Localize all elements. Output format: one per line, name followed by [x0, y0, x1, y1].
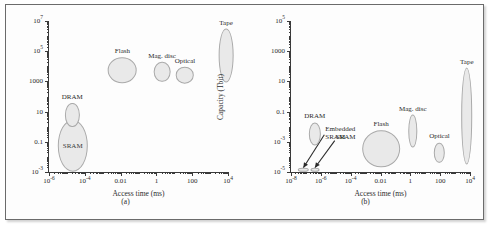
y-minor-tick [47, 77, 49, 78]
data-region-sram [310, 167, 319, 172]
y-minor-tick [47, 39, 49, 40]
x-minor-tick [58, 172, 59, 174]
y-minor-tick [289, 131, 291, 132]
y-minor-tick [47, 148, 49, 149]
x-minor-tick [201, 172, 202, 174]
data-region-dram [309, 122, 321, 145]
y-minor-tick [289, 114, 291, 115]
y-minor-tick [47, 119, 49, 120]
x-axis-tick-label: 100 [187, 178, 198, 185]
panel-b: 10-810-610-40.01110010410-510-30.1101000… [246, 5, 485, 219]
x-axis-tick [440, 172, 441, 176]
y-minor-tick [47, 42, 49, 43]
callout-line-1: SRAM [336, 133, 356, 141]
data-region-flash [108, 57, 137, 83]
data-region-tape [461, 68, 473, 165]
y-minor-tick [289, 99, 291, 100]
x-minor-tick [462, 172, 463, 174]
y-minor-tick [47, 26, 49, 27]
y-minor-tick [47, 116, 49, 117]
y-minor-tick [47, 137, 49, 138]
x-minor-tick [111, 172, 112, 174]
y-axis-tick [45, 51, 49, 52]
y-minor-tick [289, 167, 291, 168]
y-axis-tick-label: 10-5 [273, 168, 285, 175]
y-minor-tick [47, 87, 49, 88]
y-minor-tick [47, 47, 49, 48]
y-axis-tick [287, 51, 291, 52]
x-minor-tick [108, 172, 109, 174]
y-axis-tick [45, 21, 49, 22]
y-minor-tick [47, 71, 49, 72]
y-minor-tick [47, 159, 49, 160]
data-region-optical [176, 67, 195, 84]
x-minor-tick [447, 172, 448, 174]
x-minor-tick [103, 172, 104, 174]
y-minor-tick [289, 89, 291, 90]
x-minor-tick [336, 172, 337, 174]
y-minor-tick [289, 92, 291, 93]
x-axis-tick-label: 104 [223, 178, 233, 185]
x-minor-tick [370, 172, 371, 174]
x-minor-tick [215, 172, 216, 174]
y-axis-tick-label: 105 [33, 48, 43, 55]
y-minor-tick [47, 99, 49, 100]
y-minor-tick [289, 24, 291, 25]
y-minor-tick [47, 118, 49, 119]
x-minor-tick [325, 172, 326, 174]
x-axis-tick-label: 10-8 [285, 178, 297, 185]
x-axis-tick [381, 172, 382, 176]
y-minor-tick [47, 135, 49, 136]
x-minor-tick [328, 172, 329, 174]
y-minor-tick [47, 32, 49, 33]
y-axis-tick-label: 0.1 [34, 138, 43, 145]
y-minor-tick [289, 119, 291, 120]
y-axis-tick [287, 81, 291, 82]
y-axis-tick [287, 172, 291, 173]
x-minor-tick [445, 172, 446, 174]
y-axis-tick [287, 142, 291, 143]
y-minor-tick [47, 107, 49, 108]
x-minor-tick [126, 172, 127, 174]
y-minor-tick [289, 77, 291, 78]
y-minor-tick [47, 59, 49, 60]
x-minor-tick [93, 172, 94, 174]
y-axis-tick-label: 105 [275, 17, 285, 24]
y-minor-tick [289, 135, 291, 136]
data-region-optical [434, 142, 444, 162]
x-minor-tick [144, 172, 145, 174]
y-minor-tick [289, 59, 291, 60]
y-minor-tick [47, 74, 49, 75]
x-axis-tick-label: 10-4 [79, 178, 91, 185]
y-minor-tick [289, 146, 291, 147]
y-minor-tick [47, 167, 49, 168]
x-minor-tick [395, 172, 396, 174]
x-minor-tick [72, 172, 73, 174]
x-axis-tick-label: 1 [155, 178, 159, 185]
x-axis-tick-label: 10-6 [315, 178, 327, 185]
x-minor-tick [415, 172, 416, 174]
y-axis-tick-label: 107 [33, 17, 43, 24]
x-minor-tick [385, 172, 386, 174]
y-minor-tick [289, 85, 291, 86]
y-minor-tick [47, 114, 49, 115]
x-minor-tick [373, 172, 374, 174]
x-minor-tick [400, 172, 401, 174]
y-minor-tick [47, 101, 49, 102]
x-minor-tick [147, 172, 148, 174]
data-region-label: Tape [460, 58, 474, 65]
x-minor-tick [313, 172, 314, 174]
panel-a: 10-610-40.01110010410-30.1101000105107Ac… [6, 5, 245, 219]
y-minor-tick [47, 89, 49, 90]
y-minor-tick [289, 74, 291, 75]
y-minor-tick [289, 55, 291, 56]
y-axis-tick [45, 172, 49, 173]
y-minor-tick [289, 157, 291, 158]
y-minor-tick [47, 24, 49, 25]
data-region-label: SRAM [63, 142, 83, 149]
y-minor-tick [289, 103, 291, 104]
y-minor-tick [47, 146, 49, 147]
y-minor-tick [47, 36, 49, 37]
y-axis-tick [45, 81, 49, 82]
y-minor-tick [289, 57, 291, 58]
